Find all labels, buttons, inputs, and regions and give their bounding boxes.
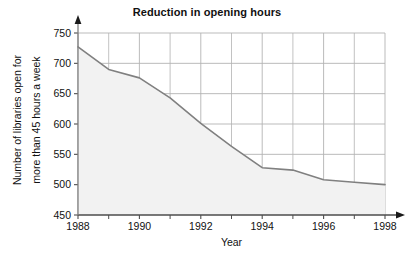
y-tick-label: 650 [53,87,71,99]
plot-area: 450500550600650700750 198819901992199419… [0,0,414,259]
y-tick-label: 700 [53,57,71,69]
y-tick-label: 550 [53,148,71,160]
x-tick-label: 1988 [66,220,90,232]
y-axis-arrow-icon [75,15,82,24]
y-axis-tick-labels: 450500550600650700750 [53,27,71,221]
x-tick-label: 1996 [312,220,336,232]
x-tick-label: 1992 [189,220,213,232]
chart-figure: Reduction in opening hours Number of lib… [0,0,414,259]
y-tick-label: 750 [53,27,71,39]
y-tick-label: 450 [53,209,71,221]
x-axis-arrow-icon [396,212,405,219]
y-tick-label: 600 [53,118,71,130]
x-tick-label: 1994 [251,220,275,232]
x-tick-label: 1998 [373,220,397,232]
x-tick-label: 1990 [128,220,152,232]
y-tick-label: 500 [53,178,71,190]
x-axis-tick-labels: 198819901992199419961998 [66,220,397,232]
